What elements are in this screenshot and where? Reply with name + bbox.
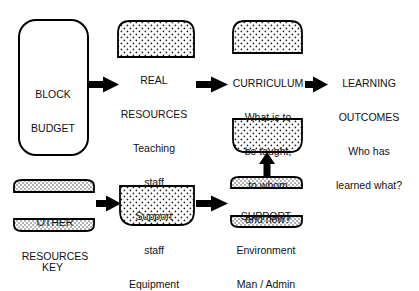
support-label: SUPPORT Environment Man / Admin: [220, 188, 312, 291]
other-resources-top-cap: [14, 180, 94, 192]
legend-heading: KEY: [42, 262, 63, 273]
curriculum-top-shape: [233, 21, 302, 53]
learning-outcomes-label: LEARNING OUTCOMES Who has learned what?: [322, 55, 416, 202]
real-resources-label: REAL RESOURCES Teaching staff Support st…: [108, 52, 200, 291]
block-budget-label: BLOCK BUDGET: [18, 66, 88, 145]
